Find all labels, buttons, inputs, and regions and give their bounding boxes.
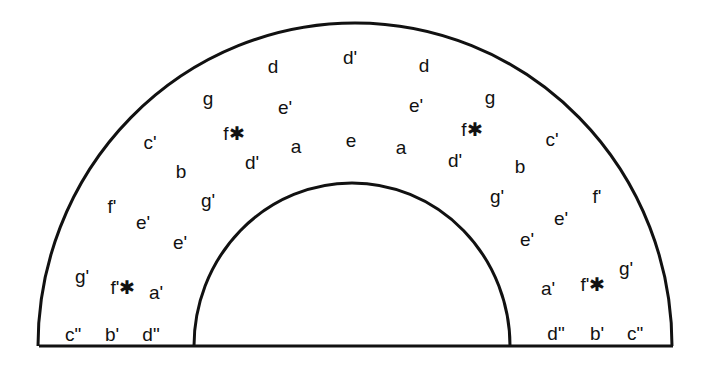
note-label: a' bbox=[149, 283, 163, 302]
note-label: d bbox=[268, 57, 279, 76]
note-label: e' bbox=[554, 209, 568, 228]
note-label: a bbox=[291, 137, 302, 156]
note-label: a' bbox=[541, 279, 555, 298]
note-label: b bbox=[176, 162, 187, 181]
inner-arc bbox=[194, 183, 510, 346]
note-label: c" bbox=[627, 324, 643, 343]
note-label: f✱ bbox=[461, 120, 482, 139]
note-label: g bbox=[203, 89, 214, 108]
note-label: f' bbox=[108, 197, 117, 216]
note-label: c' bbox=[545, 130, 558, 149]
note-label: b' bbox=[105, 325, 119, 344]
note-label: b' bbox=[590, 324, 604, 343]
note-label: f' bbox=[593, 187, 602, 206]
note-label: d' bbox=[448, 151, 462, 170]
note-label: e' bbox=[278, 98, 292, 117]
note-label: g' bbox=[619, 259, 633, 278]
note-label: d" bbox=[142, 325, 159, 344]
note-label: f'✱ bbox=[111, 278, 136, 297]
note-label: f'✱ bbox=[581, 275, 606, 294]
note-label: b bbox=[515, 157, 526, 176]
note-label: d' bbox=[245, 153, 259, 172]
note-label: d bbox=[419, 56, 430, 75]
note-label: g' bbox=[490, 187, 504, 206]
note-label: d" bbox=[547, 324, 564, 343]
note-label: e' bbox=[409, 96, 423, 115]
note-label: f✱ bbox=[223, 124, 244, 143]
note-label: d' bbox=[343, 48, 357, 67]
note-label: e' bbox=[520, 230, 534, 249]
note-label: a bbox=[396, 138, 407, 157]
note-label: e bbox=[346, 131, 357, 150]
note-label: c" bbox=[65, 325, 81, 344]
note-label: c' bbox=[143, 133, 156, 152]
note-label: g bbox=[485, 88, 496, 107]
note-label: g' bbox=[201, 191, 215, 210]
note-label: e' bbox=[136, 213, 150, 232]
note-label: e' bbox=[173, 233, 187, 252]
note-label: g' bbox=[75, 267, 89, 286]
